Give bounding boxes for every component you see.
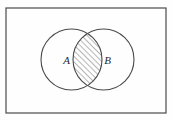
set-b-label: B	[104, 54, 111, 66]
venn-diagram-canvas: A B	[0, 0, 173, 121]
venn-diagram-figure: A B	[0, 0, 173, 121]
set-a-label: A	[62, 54, 70, 66]
